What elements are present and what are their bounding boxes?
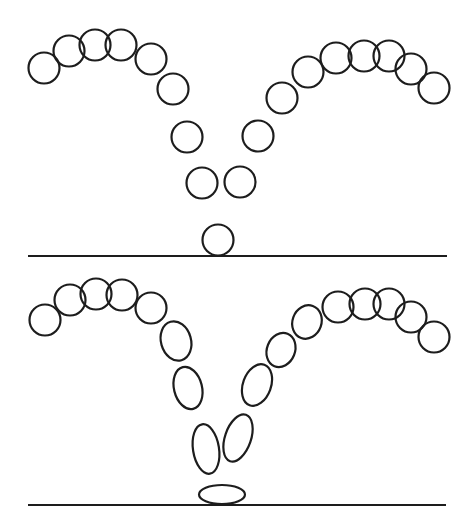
ball-circle xyxy=(203,225,234,256)
ball-stretched xyxy=(218,411,259,466)
panel-top-uniform-bounce xyxy=(28,30,450,257)
ball-circle xyxy=(187,168,218,199)
ball-circle xyxy=(349,41,380,72)
ball-stretched xyxy=(236,360,277,410)
diagram-canvas xyxy=(0,0,471,523)
ball-circle xyxy=(267,83,298,114)
bouncing-ball-figure xyxy=(0,0,471,523)
ball-stretched xyxy=(169,364,207,412)
ball-circle xyxy=(419,322,450,353)
ball-circle xyxy=(136,44,167,75)
ball-circle xyxy=(243,121,274,152)
panel-bottom-squash-stretch-bounce xyxy=(28,279,450,506)
ball-stretched xyxy=(288,301,327,343)
ball-circle xyxy=(30,305,61,336)
ball-circle xyxy=(293,57,324,88)
ball-stretched xyxy=(156,318,196,365)
ball-circle xyxy=(136,293,167,324)
ball-circle xyxy=(374,289,405,320)
ball-stretched xyxy=(261,329,300,372)
ball-circle xyxy=(374,41,405,72)
ball-circle xyxy=(225,167,256,198)
ball-circle xyxy=(419,73,450,104)
ball-circle xyxy=(172,122,203,153)
ball-circle xyxy=(321,43,352,74)
ball-squashed xyxy=(199,485,245,504)
ball-circle xyxy=(158,74,189,105)
ball-stretched xyxy=(189,422,223,475)
